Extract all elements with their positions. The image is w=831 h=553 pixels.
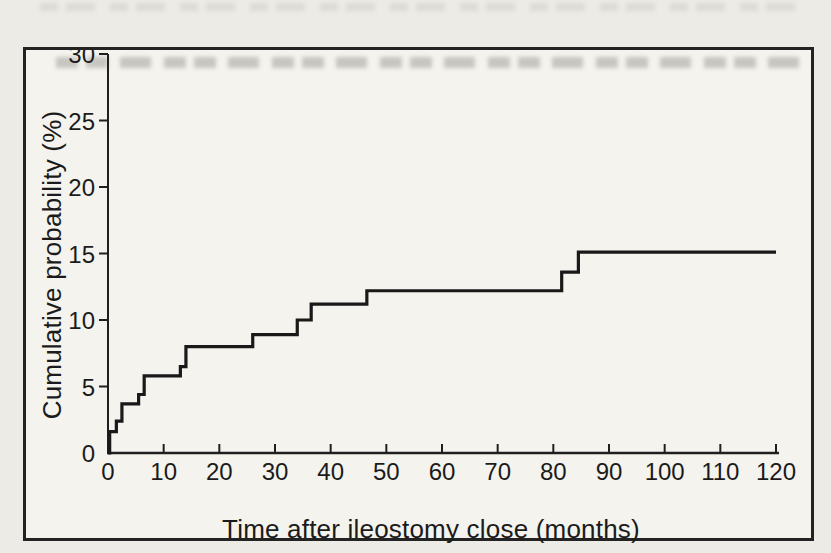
figure-frame: 0510152025300102030405060708090100110120… (23, 47, 814, 541)
y-tick-label: 15 (68, 241, 95, 268)
x-tick-label: 70 (484, 458, 511, 485)
x-tick-label: 120 (756, 458, 796, 485)
scanned-figure-page: 0510152025300102030405060708090100110120… (0, 0, 831, 553)
x-tick-label: 80 (540, 458, 567, 485)
x-tick-label: 40 (317, 458, 344, 485)
y-tick-label: 25 (68, 108, 95, 135)
y-tick-label: 5 (82, 374, 95, 401)
y-tick-label: 0 (82, 440, 95, 467)
x-tick-label: 100 (645, 458, 685, 485)
x-tick-label: 60 (429, 458, 456, 485)
y-tick-label: 30 (68, 50, 95, 68)
x-tick-label: 30 (262, 458, 289, 485)
cumulative-probability-curve (108, 252, 776, 453)
y-tick-label: 10 (68, 307, 95, 334)
scan-artifact-top (40, 3, 800, 11)
x-tick-label: 0 (101, 458, 114, 485)
x-tick-label: 90 (596, 458, 623, 485)
x-tick-label: 110 (701, 458, 739, 485)
y-axis-title: Cumulative probability (%) (36, 65, 68, 465)
step-chart: 0510152025300102030405060708090100110120 (26, 50, 811, 538)
x-tick-label: 10 (150, 458, 177, 485)
x-tick-label: 20 (206, 458, 233, 485)
y-tick-label: 20 (68, 174, 95, 201)
x-tick-label: 50 (373, 458, 400, 485)
x-axis-title: Time after ileostomy close (months) (131, 513, 731, 545)
